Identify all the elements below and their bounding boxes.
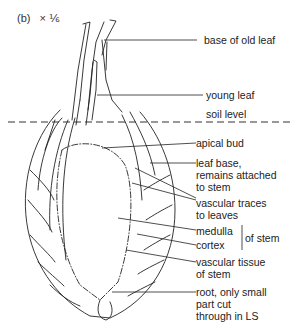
label-leaf-base-line3: to stem [196, 181, 230, 193]
label-root-line1: root, only small [196, 286, 267, 298]
label-leaf-base-line2: remains attached [196, 169, 277, 181]
label-vascular-traces-line1: vascular traces [196, 197, 267, 209]
label-young-leaf: young leaf [206, 89, 254, 101]
label-of-stem: of stem [245, 232, 279, 244]
label-apical-bud: apical bud [196, 137, 244, 149]
label-soil-level: soil level [206, 108, 246, 120]
stem-tuber-illustration [0, 0, 292, 333]
label-leaf-base-line1: leaf base, [196, 157, 242, 169]
label-base-of-old-leaf: base of old leaf [204, 34, 275, 46]
label-vascular-tissue-line2: of stem [196, 268, 230, 280]
label-root-line2: part cut [196, 298, 231, 310]
label-medulla: medulla [196, 225, 233, 237]
label-cortex: cortex [196, 239, 225, 251]
label-root-line3: through in LS [196, 310, 258, 322]
label-vascular-traces-line2: to leaves [196, 209, 238, 221]
label-vascular-tissue-line1: vascular tissue [196, 256, 265, 268]
